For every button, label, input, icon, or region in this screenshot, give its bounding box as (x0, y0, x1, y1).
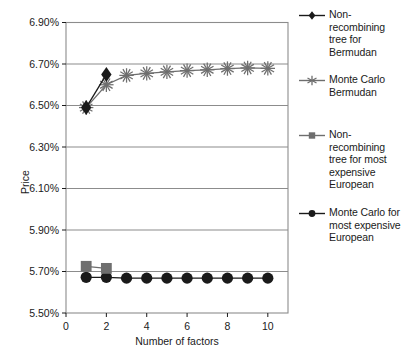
grid-lines (66, 23, 288, 272)
x-tick-label: 2 (103, 320, 109, 332)
legend-key-circle (299, 206, 325, 219)
series-layer (79, 61, 275, 284)
circle-marker-icon (309, 210, 316, 217)
chart-legend: Non-recombining tree for Bermudan Monte … (299, 0, 406, 357)
y-axis-ticks (62, 23, 66, 314)
legend-label: Monte Carlo for most expensive European (329, 206, 403, 244)
x-tick-label: 10 (262, 320, 274, 332)
y-tick-label: 6.90% (29, 16, 59, 28)
x-tick-label: 6 (184, 320, 190, 332)
legend-label: Non-recombining tree for Bermudan (329, 8, 403, 58)
y-tick-label: 5.50% (29, 307, 59, 319)
legend-key-diamond (299, 8, 325, 21)
legend-entry-non-recombining-tree-bermudan[interactable]: Non-recombining tree for Bermudan (299, 8, 403, 58)
x-tick-label: 8 (225, 320, 231, 332)
legend-entry-monte-carlo-bermudan[interactable]: Monte Carlo Bermudan (299, 73, 403, 98)
y-tick-label: 6.50% (29, 99, 59, 111)
legend-label: Non-recombining tree for most expensive … (329, 128, 403, 191)
y-axis-title: Price (19, 170, 31, 194)
plot-frame (66, 23, 288, 314)
x-tick-label: 4 (144, 320, 150, 332)
y-tick-labels: 5.50%5.70%5.90%6.10%6.30%6.50%6.70%6.90% (29, 16, 59, 319)
chart-figure: 5.50%5.70%5.90%6.10%6.30%6.50%6.70%6.90%… (0, 0, 406, 357)
diamond-marker-icon (309, 11, 316, 20)
x-tick-label: 0 (63, 320, 69, 332)
legend-entry-monte-carlo-european[interactable]: Monte Carlo for most expensive European (299, 206, 403, 244)
x-axis-ticks (66, 313, 268, 317)
y-tick-label: 6.30% (29, 141, 59, 153)
legend-label: Monte Carlo Bermudan (329, 73, 403, 98)
y-tick-label: 6.70% (29, 58, 59, 70)
legend-key-asterisk (299, 73, 325, 86)
square-marker-icon (309, 132, 315, 138)
y-tick-label: 6.10% (29, 182, 59, 194)
legend-entry-non-recombining-tree-european[interactable]: Non-recombining tree for most expensive … (299, 128, 403, 191)
series-asterisk (79, 61, 275, 115)
legend-key-square (299, 128, 325, 141)
x-tick-labels: 0246810 (63, 320, 274, 332)
y-tick-label: 5.70% (29, 265, 59, 277)
y-tick-label: 5.90% (29, 224, 59, 236)
x-axis-title: Number of factors (135, 335, 218, 347)
